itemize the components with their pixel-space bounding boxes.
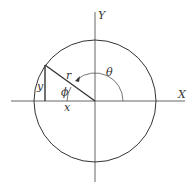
polar-diagram: Y X r θ ϕ x y bbox=[0, 0, 194, 191]
diagram-svg: Y X r θ ϕ x y bbox=[0, 0, 194, 191]
x-leg-label: x bbox=[64, 101, 71, 114]
y-axis-label: Y bbox=[98, 9, 107, 22]
phi-label: ϕ bbox=[61, 86, 69, 99]
radius-label: r bbox=[66, 69, 72, 82]
y-leg-label: y bbox=[36, 80, 44, 93]
x-axis-label: X bbox=[177, 88, 187, 101]
theta-arc bbox=[77, 73, 123, 101]
theta-label: θ bbox=[106, 66, 113, 79]
theta-arrow-icon bbox=[75, 76, 80, 82]
